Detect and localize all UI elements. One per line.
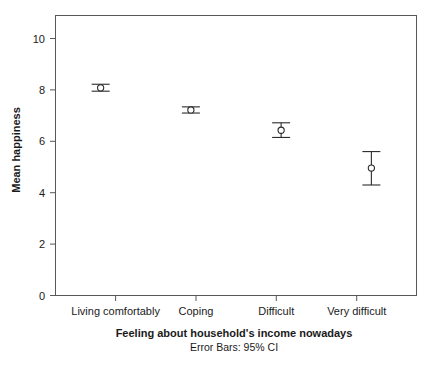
x-label-difficult: Difficult <box>258 305 294 317</box>
x-label-very-difficult: Very difficult <box>327 305 386 317</box>
mean-marker <box>98 85 104 91</box>
data-point-group <box>362 152 380 185</box>
y-tick-label-8: 8 <box>39 84 45 96</box>
plot-frame <box>56 16 417 296</box>
error-bar-caption: Error Bars: 95% CI <box>190 341 278 353</box>
y-tick-label-6: 6 <box>39 135 45 147</box>
mean-marker <box>188 107 194 113</box>
y-axis-tick-labels: 0 2 4 6 8 10 <box>33 33 45 302</box>
x-label-coping: Coping <box>179 305 214 317</box>
mean-marker <box>278 127 284 133</box>
x-axis-category-labels: Living comfortably Coping Difficult Very… <box>71 305 386 317</box>
x-label-living-comfortably: Living comfortably <box>71 305 160 317</box>
y-tick-label-0: 0 <box>39 290 45 302</box>
error-bar-chart: 0 2 4 6 8 10 Mean happiness Living comfo… <box>0 0 439 367</box>
y-axis-title: Mean happiness <box>10 107 22 193</box>
chart-svg: 0 2 4 6 8 10 Mean happiness Living comfo… <box>0 0 439 367</box>
y-axis-ticks <box>50 39 56 296</box>
y-tick-label-10: 10 <box>33 33 45 45</box>
data-point-group <box>92 84 110 91</box>
data-points-layer <box>92 84 381 185</box>
data-point-group <box>272 123 290 138</box>
y-tick-label-2: 2 <box>39 238 45 250</box>
x-axis-title: Feeling about household's income nowaday… <box>116 327 353 339</box>
mean-marker <box>368 165 374 171</box>
data-point-group <box>182 107 200 113</box>
y-tick-label-4: 4 <box>39 187 45 199</box>
x-axis-ticks <box>116 296 357 302</box>
